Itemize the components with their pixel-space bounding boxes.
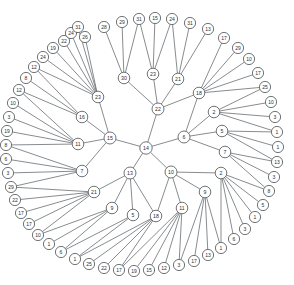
graph-node-leaf[interactable]: 29: [232, 42, 243, 53]
node-circle[interactable]: [124, 167, 136, 179]
graph-node-leaf[interactable]: 12: [28, 61, 39, 72]
graph-node-leaf[interactable]: 15: [149, 12, 160, 23]
node-circle[interactable]: [263, 185, 274, 196]
graph-node-root[interactable]: 14: [140, 142, 152, 154]
node-circle[interactable]: [113, 264, 124, 275]
graph-node-leaf[interactable]: 17: [252, 67, 263, 78]
node-circle[interactable]: [2, 167, 13, 178]
graph-node[interactable]: 21: [88, 186, 100, 198]
graph-node-leaf[interactable]: 25: [83, 258, 94, 269]
node-circle[interactable]: [69, 253, 80, 264]
node-circle[interactable]: [32, 229, 43, 240]
graph-node[interactable]: 11: [72, 138, 84, 150]
graph-node[interactable]: 18: [150, 210, 162, 222]
graph-node[interactable]: 30: [118, 72, 130, 84]
node-circle[interactable]: [173, 259, 184, 270]
node-circle[interactable]: [216, 125, 228, 137]
graph-node-leaf[interactable]: 1: [43, 238, 54, 249]
graph-node-leaf[interactable]: 1: [271, 126, 282, 137]
node-circle[interactable]: [218, 32, 229, 43]
node-circle[interactable]: [140, 142, 152, 154]
node-circle[interactable]: [249, 211, 260, 222]
node-circle[interactable]: [252, 67, 263, 78]
graph-node-leaf[interactable]: 1: [249, 211, 260, 222]
node-circle[interactable]: [208, 106, 220, 118]
graph-node-leaf[interactable]: 19: [47, 42, 58, 53]
node-circle[interactable]: [0, 139, 11, 150]
node-circle[interactable]: [268, 171, 279, 182]
graph-node-leaf[interactable]: 6: [55, 246, 66, 257]
graph-node-leaf[interactable]: 8: [20, 72, 31, 83]
graph-node[interactable]: 21: [172, 73, 184, 85]
node-circle[interactable]: [243, 53, 254, 64]
graph-node-leaf[interactable]: 10: [32, 229, 43, 240]
graph-node-leaf[interactable]: 24: [166, 13, 177, 24]
node-circle[interactable]: [259, 81, 270, 92]
node-circle[interactable]: [272, 141, 283, 152]
node-circle[interactable]: [76, 111, 88, 123]
node-circle[interactable]: [188, 255, 199, 266]
graph-node-leaf[interactable]: 3: [173, 259, 184, 270]
node-circle[interactable]: [1, 125, 12, 136]
node-circle[interactable]: [3, 111, 14, 122]
node-circle[interactable]: [106, 202, 118, 214]
node-circle[interactable]: [215, 242, 226, 253]
graph-node-leaf[interactable]: 24: [37, 51, 48, 62]
node-circle[interactable]: [202, 23, 213, 34]
node-circle[interactable]: [219, 146, 231, 158]
graph-node[interactable]: 11: [176, 202, 188, 214]
graph-node-leaf[interactable]: 31: [133, 13, 144, 24]
node-circle[interactable]: [9, 194, 20, 205]
graph-node[interactable]: 9: [106, 202, 118, 214]
graph-node-leaf[interactable]: 17: [218, 32, 229, 43]
node-circle[interactable]: [202, 249, 213, 260]
node-circle[interactable]: [166, 13, 177, 24]
graph-node-leaf[interactable]: 29: [116, 16, 127, 27]
node-circle[interactable]: [165, 166, 177, 178]
node-circle[interactable]: [193, 87, 205, 99]
node-circle[interactable]: [28, 61, 39, 72]
node-circle[interactable]: [232, 42, 243, 53]
graph-node-leaf[interactable]: 3: [2, 167, 13, 178]
graph-node[interactable]: 22: [152, 103, 164, 115]
node-circle[interactable]: [143, 264, 154, 275]
graph-node[interactable]: 7: [76, 165, 88, 177]
graph-node[interactable]: 18: [193, 87, 205, 99]
node-circle[interactable]: [7, 97, 18, 108]
graph-node[interactable]: 15: [104, 132, 116, 144]
node-circle[interactable]: [199, 186, 211, 198]
graph-node-leaf[interactable]: 19: [1, 125, 12, 136]
graph-node-leaf[interactable]: 25: [259, 81, 270, 92]
graph-node-leaf[interactable]: 17: [15, 207, 26, 218]
node-circle[interactable]: [118, 72, 130, 84]
graph-node-leaf[interactable]: 5: [257, 199, 268, 210]
node-circle[interactable]: [239, 223, 250, 234]
node-circle[interactable]: [98, 262, 109, 273]
node-circle[interactable]: [152, 103, 164, 115]
node-circle[interactable]: [76, 165, 88, 177]
graph-node-leaf[interactable]: 6: [0, 153, 11, 164]
node-circle[interactable]: [149, 12, 160, 23]
graph-node-leaf[interactable]: 13: [202, 249, 213, 260]
node-circle[interactable]: [128, 265, 139, 276]
node-circle[interactable]: [72, 138, 84, 150]
graph-node-leaf[interactable]: 1: [215, 242, 226, 253]
graph-node-leaf[interactable]: 1: [272, 141, 283, 152]
node-circle[interactable]: [150, 210, 162, 222]
node-circle[interactable]: [55, 246, 66, 257]
graph-node-leaf[interactable]: 28: [98, 21, 109, 32]
node-circle[interactable]: [147, 68, 159, 80]
graph-node-leaf[interactable]: 29: [5, 181, 16, 192]
graph-node[interactable]: 13: [124, 167, 136, 179]
graph-node-leaf[interactable]: 10: [243, 53, 254, 64]
graph-node-leaf[interactable]: 8: [263, 185, 274, 196]
node-circle[interactable]: [20, 72, 31, 83]
graph-node-leaf[interactable]: 12: [13, 84, 24, 95]
node-circle[interactable]: [83, 258, 94, 269]
node-circle[interactable]: [47, 42, 58, 53]
graph-node[interactable]: 16: [76, 111, 88, 123]
graph-node-leaf[interactable]: 8: [0, 139, 11, 150]
graph-node[interactable]: 9: [199, 186, 211, 198]
graph-node-leaf[interactable]: 3: [3, 111, 14, 122]
graph-node-leaf[interactable]: 22: [9, 194, 20, 205]
